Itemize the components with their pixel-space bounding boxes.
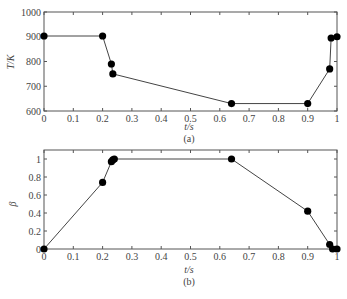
data-point: [304, 100, 311, 107]
panel-a-xlabel: t/s: [184, 121, 194, 132]
y-tick-label: 600: [26, 106, 41, 117]
y-tick-label: 0.2: [29, 226, 42, 237]
panel-a-temperature-plot: 00.10.20.30.40.50.60.70.80.9160070080090…: [21, 7, 341, 125]
data-line: [44, 36, 337, 104]
data-point: [333, 245, 340, 252]
y-tick-label: 700: [26, 81, 41, 92]
x-tick-label: 0.9: [301, 251, 314, 262]
data-point: [40, 32, 47, 39]
y-tick-label: 1000: [21, 7, 41, 18]
data-point: [304, 208, 311, 215]
x-tick-label: 0: [42, 113, 47, 124]
figure: 00.10.20.30.40.50.60.70.80.9160070080090…: [0, 0, 347, 299]
y-tick-label: 0.6: [29, 190, 42, 201]
panel-b-beta-plot: 00.10.20.30.40.50.60.70.80.9100.20.40.60…: [29, 150, 341, 262]
data-point: [99, 179, 106, 186]
data-line: [44, 159, 337, 249]
panel-b-xlabel: t/s: [184, 264, 194, 275]
y-tick-label: 1: [36, 154, 41, 165]
panel-b-caption: (b): [183, 276, 195, 288]
x-tick-label: 0.6: [214, 251, 227, 262]
data-point: [326, 65, 333, 72]
x-tick-label: 0.4: [155, 113, 168, 124]
x-tick-label: 0.2: [96, 113, 109, 124]
x-tick-label: 0.3: [126, 113, 139, 124]
data-point: [108, 60, 115, 67]
panel-a-caption: (a): [183, 133, 194, 145]
data-point: [99, 32, 106, 39]
y-tick-label: 0.4: [29, 208, 42, 219]
x-tick-label: 1: [335, 251, 340, 262]
x-tick-label: 0.9: [301, 113, 314, 124]
panel-a-ylabel: T/K: [5, 53, 16, 69]
data-point: [109, 70, 116, 77]
y-tick-label: 0: [36, 244, 41, 255]
data-point: [228, 100, 235, 107]
plot-frame: [44, 12, 337, 111]
x-tick-label: 0.1: [67, 113, 80, 124]
x-tick-label: 0.3: [126, 251, 139, 262]
x-tick-label: 0.4: [155, 251, 168, 262]
x-tick-label: 0.5: [184, 251, 197, 262]
x-tick-label: 0.7: [243, 251, 256, 262]
data-point: [228, 155, 235, 162]
y-tick-label: 0.8: [29, 172, 42, 183]
x-tick-label: 0.7: [243, 113, 256, 124]
data-point: [111, 155, 118, 162]
x-tick-label: 0.6: [214, 113, 227, 124]
x-tick-label: 0: [42, 251, 47, 262]
panel-b-ylabel: β: [7, 201, 18, 207]
y-tick-label: 900: [26, 31, 41, 42]
data-point: [40, 245, 47, 252]
x-tick-label: 0.1: [67, 251, 80, 262]
data-point: [333, 33, 340, 40]
x-tick-label: 1: [335, 113, 340, 124]
y-tick-label: 800: [26, 56, 41, 67]
x-tick-label: 0.8: [272, 251, 285, 262]
x-tick-label: 0.2: [96, 251, 109, 262]
x-tick-label: 0.8: [272, 113, 285, 124]
